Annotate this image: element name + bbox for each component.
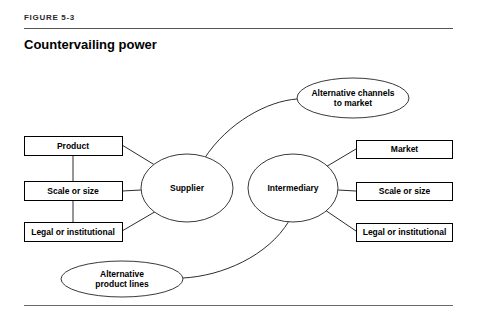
connector-intermediary-to-right-legal bbox=[325, 210, 356, 231]
connector-left-legal-to-supplier bbox=[122, 210, 158, 231]
connector-intermediary-to-right-scale bbox=[338, 190, 356, 191]
node-ellipse-alternative-product-lines[interactable] bbox=[61, 261, 183, 297]
node-ellipse-intermediary[interactable] bbox=[248, 154, 338, 222]
node-box-left-legal-or-institutional[interactable] bbox=[25, 223, 123, 242]
connector-intermediary-to-market bbox=[324, 149, 356, 168]
node-box-left-product[interactable] bbox=[25, 137, 123, 156]
footer-divider bbox=[24, 305, 453, 306]
node-box-left-scale-or-size[interactable] bbox=[25, 182, 123, 201]
node-box-right-market[interactable] bbox=[357, 141, 453, 159]
connector-intermediary-to-alt-product-lines bbox=[183, 221, 289, 278]
node-ellipse-supplier[interactable] bbox=[141, 154, 233, 222]
figure-page: FIGURE 5-3 Countervailing power bbox=[0, 0, 477, 321]
node-box-right-scale-or-size[interactable] bbox=[357, 183, 453, 201]
node-ellipse-alternative-channels[interactable] bbox=[297, 78, 409, 118]
connector-product-to-supplier bbox=[122, 145, 158, 167]
node-box-right-legal-or-institutional[interactable] bbox=[357, 224, 453, 242]
connector-left-scale-to-supplier bbox=[122, 190, 141, 191]
connector-supplier-to-alt-channels bbox=[204, 99, 297, 159]
diagram-canvas bbox=[0, 0, 477, 321]
